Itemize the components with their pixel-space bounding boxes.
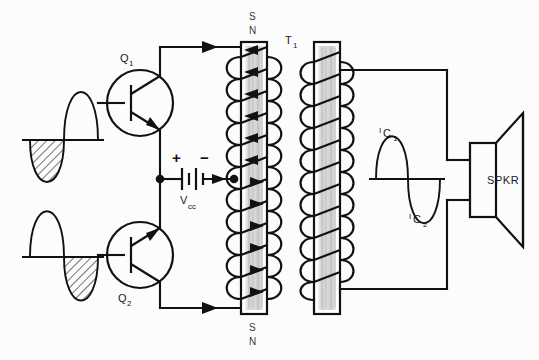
net-secondary-bottom-to-speaker xyxy=(340,200,470,289)
arrow-vcc-to-center-tap xyxy=(212,174,226,184)
svg-text:C: C xyxy=(383,127,391,139)
circuit-diagram-svg: Q 1 Q 2 + xyxy=(0,0,539,360)
label-ic2: I C 2 xyxy=(409,212,428,229)
svg-text:2: 2 xyxy=(127,299,132,308)
svg-text:Q: Q xyxy=(120,52,129,64)
net-secondary-top-to-speaker xyxy=(340,70,470,160)
q1-emitter-arrow xyxy=(146,117,160,130)
svg-text:cc: cc xyxy=(188,202,196,211)
transistor-q1[interactable] xyxy=(98,47,173,179)
input-waveform-q2 xyxy=(22,211,104,300)
label-q1: Q 1 xyxy=(120,52,134,68)
transformer-pole-labels-top: S N xyxy=(249,11,256,36)
svg-text:1: 1 xyxy=(129,59,134,68)
svg-text:Q: Q xyxy=(118,292,127,304)
net-q1-collector-primary-top xyxy=(160,41,250,53)
waveform-q2-positive-half xyxy=(30,211,64,257)
net-q2-collector-primary-bottom xyxy=(160,302,250,314)
transistor-q2[interactable] xyxy=(98,179,173,308)
svg-text:V: V xyxy=(180,194,188,206)
speaker-label: SPKR xyxy=(487,174,519,186)
svg-text:1: 1 xyxy=(293,41,298,50)
svg-text:N: N xyxy=(249,336,256,347)
arrow-q1-collector-to-primary xyxy=(202,41,218,53)
waveform-q1-negative-half-shaded xyxy=(30,140,64,182)
center-tap-node xyxy=(230,175,239,184)
input-waveform-q1 xyxy=(22,92,104,182)
svg-text:S: S xyxy=(249,322,256,333)
waveform-q1-positive-half xyxy=(64,92,98,140)
q2-emitter-arrow xyxy=(146,228,160,241)
label-q2: Q 2 xyxy=(118,292,132,308)
svg-text:+: + xyxy=(172,149,181,166)
circuit-diagram-canvas: Q 1 Q 2 + xyxy=(0,0,539,360)
svg-text:S: S xyxy=(249,11,256,22)
svg-text:2: 2 xyxy=(423,220,428,229)
svg-text:I: I xyxy=(379,126,381,135)
transformer-pole-labels-bottom: S N xyxy=(249,322,256,347)
output-waveform-secondary xyxy=(369,136,445,223)
svg-text:T: T xyxy=(285,34,292,46)
svg-text:N: N xyxy=(249,25,256,36)
svg-text:I: I xyxy=(409,212,411,221)
svg-text:C: C xyxy=(413,213,421,225)
waveform-q2-negative-half-shaded xyxy=(64,257,98,301)
svg-text:1: 1 xyxy=(393,134,398,143)
label-ic1: I C 1 xyxy=(379,126,398,143)
arrow-q2-collector-to-primary xyxy=(202,302,218,314)
svg-text:−: − xyxy=(200,149,209,166)
label-t1: T 1 xyxy=(285,34,298,50)
